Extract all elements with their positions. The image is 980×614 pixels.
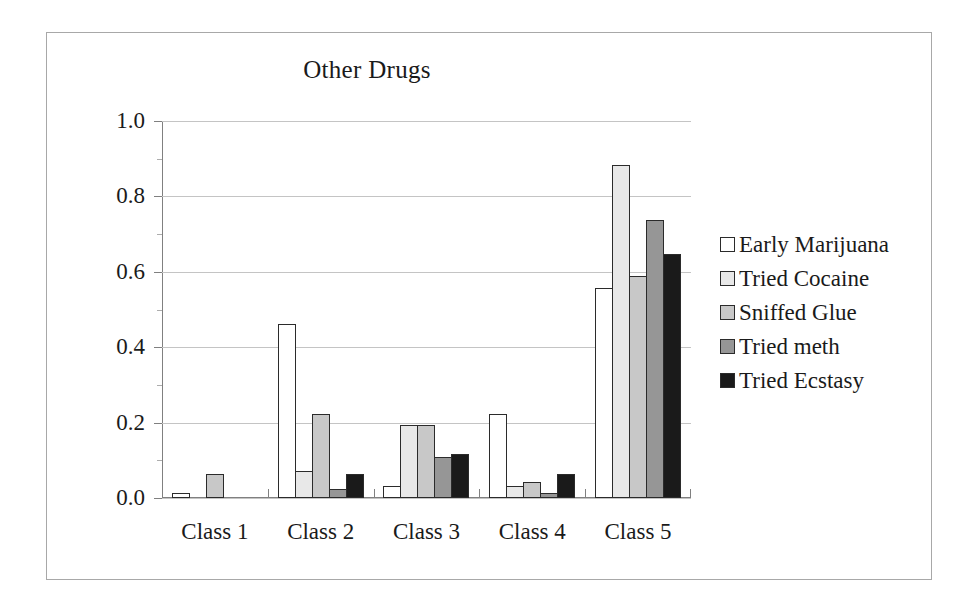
bar bbox=[629, 276, 647, 498]
bar-group: Class 1 bbox=[162, 121, 268, 498]
bar bbox=[451, 454, 469, 498]
legend-swatch-icon bbox=[720, 271, 735, 286]
chart-legend: Early MarijuanaTried CocaineSniffed Glue… bbox=[720, 233, 889, 392]
x-axis-tick bbox=[268, 489, 269, 498]
legend-swatch-icon bbox=[720, 237, 735, 252]
x-axis-tick bbox=[374, 489, 375, 498]
x-axis-tick bbox=[585, 489, 586, 498]
y-axis-tick-label: 0.4 bbox=[116, 334, 145, 360]
bar bbox=[329, 489, 347, 498]
bar bbox=[278, 324, 296, 498]
bar bbox=[400, 425, 418, 498]
x-axis-category-label: Class 5 bbox=[585, 519, 691, 545]
bar bbox=[295, 471, 313, 498]
bar-group: Class 5 bbox=[585, 121, 691, 498]
bar bbox=[506, 486, 524, 498]
legend-label: Tried Cocaine bbox=[739, 267, 869, 290]
y-axis-tick bbox=[154, 347, 162, 348]
legend-label: Tried Ecstasy bbox=[739, 369, 864, 392]
bar bbox=[206, 474, 224, 498]
bar bbox=[172, 493, 190, 498]
bar bbox=[346, 474, 364, 498]
y-axis-tick bbox=[154, 196, 162, 197]
bar bbox=[612, 165, 630, 498]
y-axis-tick bbox=[154, 423, 162, 424]
bar-group: Class 4 bbox=[479, 121, 585, 498]
x-axis-category-label: Class 4 bbox=[479, 519, 585, 545]
gridline bbox=[162, 498, 691, 499]
legend-label: Tried meth bbox=[739, 335, 840, 358]
x-axis-tick bbox=[479, 489, 480, 498]
x-axis-category-label: Class 3 bbox=[374, 519, 480, 545]
legend-swatch-icon bbox=[720, 305, 735, 320]
bar-group: Class 3 bbox=[374, 121, 480, 498]
bar bbox=[383, 486, 401, 498]
bar bbox=[523, 482, 541, 498]
x-axis-tick bbox=[162, 489, 163, 498]
y-axis-tick-label: 0.6 bbox=[116, 259, 145, 285]
legend-swatch-icon bbox=[720, 339, 735, 354]
x-axis-category-label: Class 1 bbox=[162, 519, 268, 545]
y-axis-tick-label: 0.0 bbox=[116, 485, 145, 511]
x-axis-tick bbox=[690, 489, 691, 498]
bar bbox=[312, 414, 330, 498]
bar bbox=[557, 474, 575, 498]
y-axis-tick bbox=[154, 498, 162, 499]
y-axis-tick bbox=[154, 272, 162, 273]
bar bbox=[489, 414, 507, 498]
legend-label: Sniffed Glue bbox=[739, 301, 857, 324]
bar bbox=[417, 425, 435, 498]
bar bbox=[595, 288, 613, 498]
bar bbox=[663, 254, 681, 498]
bar bbox=[434, 457, 452, 498]
chart-title: Other Drugs bbox=[47, 56, 687, 84]
plot-area: 0.00.20.40.60.81.0 Class 1Class 2Class 3… bbox=[162, 121, 691, 498]
legend-item: Sniffed Glue bbox=[720, 301, 889, 324]
bars-layer: Class 1Class 2Class 3Class 4Class 5 bbox=[162, 121, 691, 498]
legend-item: Early Marijuana bbox=[720, 233, 889, 256]
bar bbox=[646, 220, 664, 498]
x-axis-category-label: Class 2 bbox=[268, 519, 374, 545]
y-axis-tick bbox=[154, 121, 162, 122]
bar bbox=[540, 493, 558, 498]
chart-figure: Other Drugs 0.00.20.40.60.81.0 Class 1Cl… bbox=[46, 32, 932, 580]
legend-swatch-icon bbox=[720, 373, 735, 388]
legend-item: Tried Cocaine bbox=[720, 267, 889, 290]
legend-label: Early Marijuana bbox=[739, 233, 889, 256]
y-axis-tick-label: 0.8 bbox=[116, 183, 145, 209]
bar-group: Class 2 bbox=[268, 121, 374, 498]
legend-item: Tried meth bbox=[720, 335, 889, 358]
y-axis-tick-label: 0.2 bbox=[116, 410, 145, 436]
y-axis-tick-label: 1.0 bbox=[116, 108, 145, 134]
legend-item: Tried Ecstasy bbox=[720, 369, 889, 392]
